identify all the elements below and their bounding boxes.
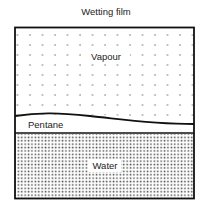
pentane-label: Pentane	[28, 119, 63, 130]
wetting-film-diagram: Vapour Pentane Water	[0, 0, 212, 222]
vapour-label: Vapour	[91, 51, 121, 62]
water-label: Water	[93, 160, 118, 171]
